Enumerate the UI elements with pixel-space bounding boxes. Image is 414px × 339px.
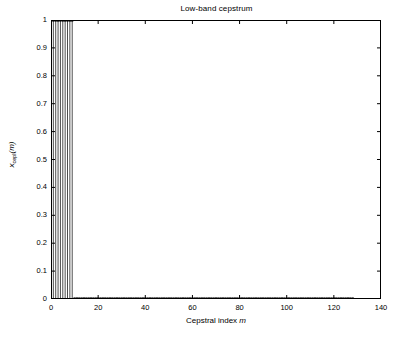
x-tick-label: 60: [177, 303, 207, 312]
y-axis-label-subscript: cepl: [11, 153, 17, 163]
figure-canvas: Low-band cepstrum 020406080100120140 00.…: [0, 0, 414, 339]
x-tick-label: 100: [272, 303, 302, 312]
y-tick-label: 0.4: [21, 182, 47, 191]
chart-title: Low-band cepstrum: [51, 4, 382, 13]
y-tick-label: 0: [21, 294, 47, 303]
y-axis-label-base: x: [7, 164, 16, 168]
y-tick-label: 1: [21, 15, 47, 24]
x-tick-label: 40: [130, 303, 160, 312]
x-tick-label: 80: [225, 303, 255, 312]
y-tick-label: 0.7: [21, 99, 47, 108]
y-axis-label: xcepl(m): [7, 120, 16, 190]
x-axis-label: Cepstral index m: [51, 316, 381, 325]
y-tick-label: 0.6: [21, 127, 47, 136]
x-tick-label: 140: [366, 303, 396, 312]
y-tick-label: 0.5: [21, 155, 47, 164]
x-tick-label: 120: [319, 303, 349, 312]
x-axis-label-text: Cepstral index: [186, 316, 239, 325]
y-axis-label-arg: (m): [7, 141, 16, 153]
y-tick-label: 0.3: [21, 210, 47, 219]
x-tick-label: 20: [83, 303, 113, 312]
y-tick-label: 0.2: [21, 238, 47, 247]
y-tick-label: 0.1: [21, 266, 47, 275]
y-tick-label: 0.8: [21, 71, 47, 80]
axes-frame: [51, 20, 381, 299]
x-tick-label: 0: [36, 303, 66, 312]
x-axis-label-var: m: [239, 316, 246, 325]
y-tick-label: 0.9: [21, 43, 47, 52]
